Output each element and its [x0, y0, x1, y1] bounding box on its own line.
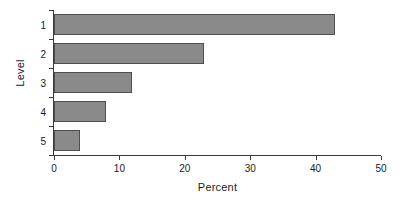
x-axis-title: Percent: [54, 181, 381, 193]
x-tick-mark: [185, 156, 186, 160]
bar: [54, 101, 106, 122]
plot-area: 12345 01020304050: [54, 10, 381, 155]
x-tick-mark: [119, 156, 120, 160]
bar: [54, 130, 80, 151]
y-tick-mark: [49, 39, 53, 40]
y-tick-label: 4: [30, 106, 46, 117]
y-axis-title-text: Level: [14, 59, 26, 86]
y-tick-mark: [49, 126, 53, 127]
x-axis-line: [53, 155, 381, 156]
x-tick-label: 20: [170, 163, 200, 174]
x-tick-mark: [316, 156, 317, 160]
x-tick-label: 10: [104, 163, 134, 174]
y-tick-label: 2: [30, 48, 46, 59]
x-tick-label: 40: [301, 163, 331, 174]
y-tick-mark: [49, 10, 53, 11]
y-tick-mark: [49, 68, 53, 69]
y-tick-label: 5: [30, 135, 46, 146]
x-tick-mark: [54, 156, 55, 160]
x-tick-label: 0: [39, 163, 69, 174]
x-tick-mark: [250, 156, 251, 160]
bar-chart: Level 12345 01020304050 Percent: [0, 0, 402, 207]
bar: [54, 72, 132, 93]
y-tick-label: 1: [30, 19, 46, 30]
y-tick-mark: [49, 97, 53, 98]
x-tick-label: 50: [366, 163, 396, 174]
x-tick-mark: [381, 156, 382, 160]
x-tick-label: 30: [235, 163, 265, 174]
y-tick-label: 3: [30, 77, 46, 88]
bar: [54, 43, 204, 64]
y-tick-mark: [49, 155, 53, 156]
bar: [54, 14, 335, 35]
